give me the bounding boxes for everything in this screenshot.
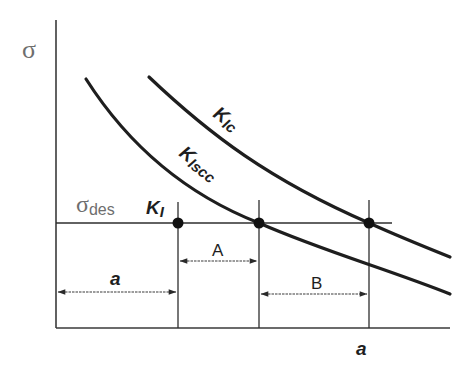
dimension-label-A: A: [212, 241, 224, 260]
dimension-crack-length: a: [58, 268, 176, 292]
design-stress-label: σdes: [76, 191, 115, 218]
design-stress-symbol: σ: [76, 191, 89, 217]
dimension-label-B: B: [311, 274, 322, 293]
dimension-label-a: a: [110, 268, 121, 289]
x-axis-label: a: [356, 338, 367, 359]
point-ki: [173, 218, 184, 229]
dimension-interval-A: A: [180, 241, 257, 261]
point-kiscc-intersection: [254, 218, 265, 229]
curve-kiscc: [86, 79, 450, 294]
dimension-interval-B: B: [261, 274, 367, 294]
design-stress-subscript: des: [89, 201, 115, 218]
ki-label: KI: [146, 197, 165, 220]
y-axis-label: σ: [22, 35, 36, 64]
point-kic-intersection: [364, 218, 375, 229]
fracture-mechanics-diagram: σ a σdes KIc KIscc KI a A B: [0, 0, 474, 374]
vertical-guides: [178, 200, 369, 328]
